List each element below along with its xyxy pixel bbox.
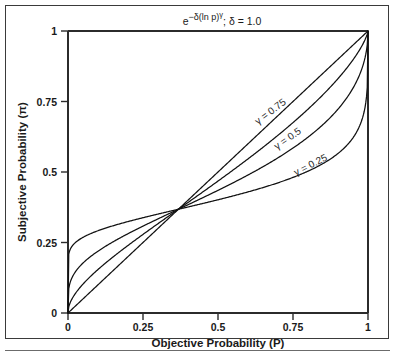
title-exponent-lead: −δ(ln p) [189,12,220,22]
probability-weighting-chart: e−δ(ln p)γ; δ = 1.0 1 0.75 0.5 [0,0,395,361]
x-tick-label-05: 0.5 [211,321,226,333]
curve-label-gamma-025: γ = 0.25 [292,152,329,178]
plot-title: e−δ(ln p)γ; δ = 1.0 [183,10,262,28]
curve-label-gamma-05: γ = 0.5 [272,125,303,152]
curve-group [68,31,368,313]
y-axis-title: Subjective Probability (π) [16,102,28,242]
figure-root: e−δ(ln p)γ; δ = 1.0 1 0.75 0.5 [0,0,395,361]
title-tail: ; δ = 1.0 [223,15,261,27]
curve-gamma-1.0 [68,31,368,313]
y-tick-label-1: 1 [51,25,57,37]
y-tick-label-05: 0.5 [42,166,57,178]
y-tick-label-075: 0.75 [37,96,58,108]
x-axis-title: Objective Probability (P) [152,337,285,349]
y-tick-label-025: 0.25 [37,237,58,249]
x-tick-label-1: 1 [365,321,371,333]
plot-title-text: e−δ(ln p)γ; δ = 1.0 [183,10,262,28]
x-tick-label-025: 0.25 [133,321,154,333]
x-axis-tick-labels: 0 0.25 0.5 0.75 1 [65,321,371,333]
x-axis-ticks [68,313,368,320]
y-axis-ticks [61,31,68,313]
y-axis-tick-labels: 1 0.75 0.5 0.25 0 [37,25,58,319]
x-tick-label-075: 0.75 [283,321,304,333]
x-tick-label-0: 0 [65,321,71,333]
y-tick-label-0: 0 [51,307,57,319]
